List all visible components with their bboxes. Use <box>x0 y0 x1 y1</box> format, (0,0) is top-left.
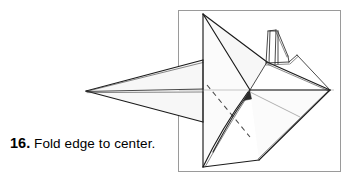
step-number: 16. <box>10 135 30 151</box>
screenshot-root: 16. Fold edge to center. <box>0 0 358 181</box>
origami-step-diagram <box>0 0 358 181</box>
step-caption: 16. Fold edge to center. <box>10 134 155 153</box>
step-instruction: Fold edge to center. <box>34 136 155 151</box>
